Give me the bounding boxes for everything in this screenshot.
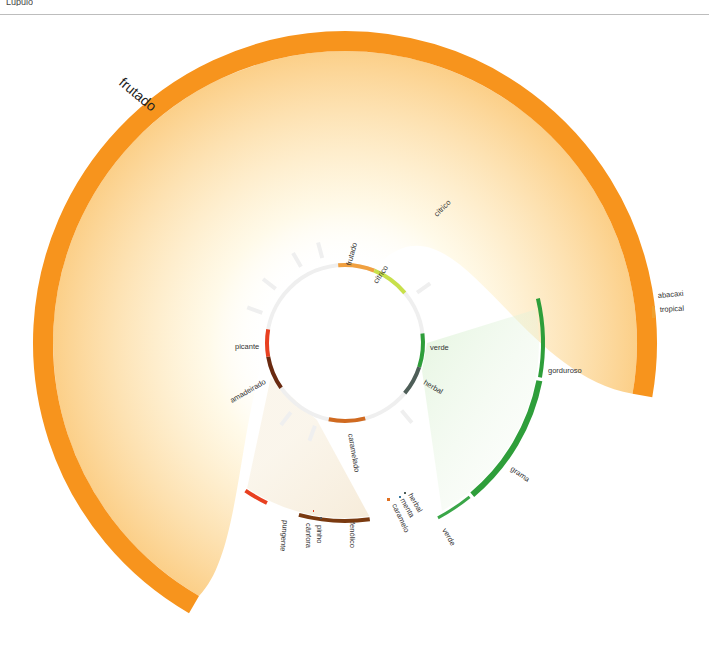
outer-label-fenolico: fenólico: [348, 522, 357, 548]
outer-label-canfora: cânfora: [304, 523, 313, 549]
outer-label-abacaxi: abacaxi: [657, 289, 684, 300]
inner-stub: [417, 283, 430, 292]
inner-label-verde: verde: [430, 343, 449, 352]
inner-segment-herbal: [405, 367, 419, 393]
marker-menta: [399, 496, 401, 498]
marker-canfora: [313, 510, 314, 512]
inner-stub: [402, 410, 412, 422]
inner-label-caramelado: caramelado: [346, 433, 362, 473]
outer-label-verde: verde: [440, 527, 457, 548]
marker-caramelo: [387, 498, 390, 501]
ribbon-verde: [422, 309, 539, 511]
outer-label-frutado: frutado: [116, 74, 160, 114]
inner-segment-picante: [267, 329, 268, 356]
outer-label-gorduroso: gorduroso: [548, 366, 582, 375]
outer-label-pinho: pinho: [315, 525, 324, 543]
inner-segment-caramelado: [329, 418, 365, 421]
outer-label-tropical: tropical: [660, 304, 685, 314]
marker-abacaxi: [651, 297, 653, 299]
outer-label-pungente: pungente: [278, 520, 290, 552]
marker-pinho: [320, 517, 322, 519]
hop-flavor-wheel: frutadoabacaxitropicalgordurosogramaverd…: [0, 0, 709, 658]
marker-tropical: [652, 306, 655, 318]
marker-herbal: [404, 492, 406, 494]
inner-label-picante: picante: [235, 342, 259, 351]
outer-label-grama: grama: [509, 464, 532, 484]
inner-label-citrico: cítrico: [371, 264, 390, 286]
inner-segment-verde: [419, 333, 423, 367]
